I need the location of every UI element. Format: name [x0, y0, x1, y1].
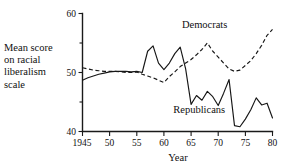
x-tick-label-1970: 70	[213, 138, 223, 148]
series-annotation-republicans: Republicans	[173, 104, 225, 115]
y-axis-tick-labels: 60 50 40	[67, 9, 77, 137]
chart-figure: Mean score on racial liberalism scale 60…	[0, 0, 282, 167]
x-tick-label-1980: 80	[268, 138, 278, 148]
x-axis-label: Year	[168, 152, 188, 163]
series-annotation-democrats: Democrats	[182, 19, 227, 30]
y-tick-label-50: 50	[67, 68, 77, 78]
x-tick-label-1945: 1945	[73, 138, 92, 148]
y-tick-label-40: 40	[67, 127, 77, 137]
x-tick-label-1960: 60	[159, 138, 169, 148]
line-chart-plot: 60 50 40 1945 50 55 60 65 70 75 80 Year	[0, 0, 282, 167]
x-tick-label-1975: 75	[241, 138, 251, 148]
series-line-democrats	[83, 29, 273, 82]
x-tick-label-1950: 50	[105, 138, 115, 148]
x-tick-label-1955: 55	[132, 138, 142, 148]
x-tick-label-1965: 65	[186, 138, 196, 148]
series-line-republicans	[83, 46, 273, 127]
x-axis-tick-labels: 1945 50 55 60 65 70 75 80	[73, 138, 278, 148]
y-tick-label-60: 60	[67, 9, 77, 19]
